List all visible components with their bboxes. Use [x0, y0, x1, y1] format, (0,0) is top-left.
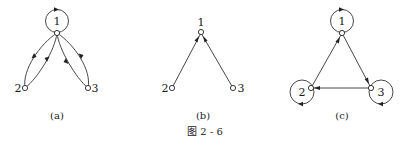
- arrowhead-icon: [365, 78, 369, 85]
- node-label-1: 1: [339, 15, 346, 28]
- edge-3-1-inner: [57, 33, 88, 88]
- panel-a: 1 2 3 (a): [15, 7, 99, 121]
- arrowhead-icon: [195, 36, 200, 43]
- node-label-2: 2: [15, 82, 22, 95]
- edge-1-3-outer: [57, 33, 89, 88]
- node-2: [308, 85, 313, 90]
- arrowhead-icon: [203, 36, 208, 43]
- arrowhead-icon: [378, 102, 383, 106]
- node-label-2: 2: [162, 82, 169, 95]
- node-1: [54, 30, 59, 35]
- panel-b: 1 2 3 (b): [162, 16, 245, 121]
- node-2: [22, 85, 27, 90]
- node-1: [339, 30, 344, 35]
- edge-2-1-inner: [25, 33, 57, 88]
- node-1: [198, 29, 203, 34]
- node-3: [368, 85, 373, 90]
- node-3: [230, 85, 235, 90]
- node-label-3: 3: [238, 82, 245, 95]
- node-label-1: 1: [54, 15, 61, 28]
- arrowhead-icon: [298, 102, 303, 106]
- arrowhead-icon: [54, 7, 59, 11]
- edge-1-2-outer: [25, 33, 57, 88]
- node-label-1: 1: [198, 16, 205, 29]
- arrowhead-icon: [339, 7, 344, 11]
- figure-caption: 图 2 - 6: [187, 126, 223, 137]
- panel-label-a: (a): [50, 110, 64, 121]
- node-label-2: 2: [299, 86, 306, 99]
- panel-label-c: (c): [335, 110, 349, 121]
- panel-label-b: (b): [196, 110, 210, 121]
- panel-c: 1 2 3 (c): [290, 7, 393, 121]
- figure-2-6: 1 2 3 (a) 1 2 3 (b): [0, 0, 407, 151]
- node-label-3: 3: [378, 86, 385, 99]
- node-3: [85, 85, 90, 90]
- node-label-3: 3: [92, 82, 99, 95]
- arrowhead-icon: [45, 57, 50, 63]
- node-2: [169, 85, 174, 90]
- arrowhead-icon: [314, 86, 320, 90]
